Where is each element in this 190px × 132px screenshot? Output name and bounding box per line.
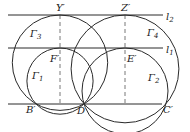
label-d: D [76,105,85,116]
label-gamma3: Γ3 [29,28,42,41]
label-l1: l1 [166,44,174,57]
label-b-prime: B′ [25,104,36,115]
geometry-diagram: Y′ Z′ F′ E′ B′ D C′ l2 l1 Γ3 Γ4 Γ1 Γ2 [0,0,190,132]
label-e-prime: E′ [126,53,137,64]
label-gamma1: Γ1 [31,70,43,83]
label-z-prime: Z′ [120,2,131,13]
label-gamma2: Γ2 [147,72,160,85]
label-f-prime: F′ [49,53,60,64]
label-l2: l2 [166,11,174,24]
label-y-prime: Y′ [56,2,66,13]
label-gamma4: Γ4 [146,27,158,40]
label-c-prime: C′ [163,104,174,115]
